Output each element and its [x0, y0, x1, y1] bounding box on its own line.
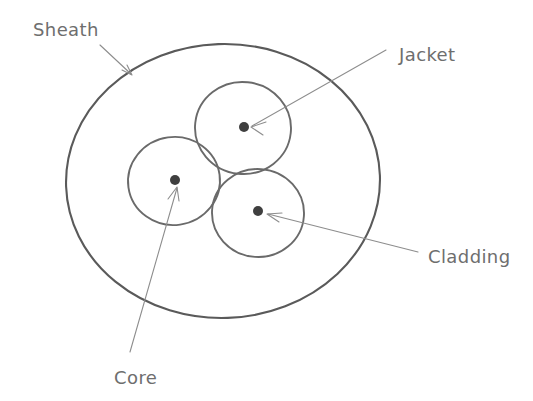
jacket-center-dot [239, 122, 249, 132]
jacket-leader-line [252, 50, 386, 126]
diagram-canvas: Sheath Jacket Cladding Core [0, 0, 533, 401]
sheath-group [61, 39, 384, 324]
jacket-arrow-head-icon [251, 122, 266, 135]
core-strand-group [122, 131, 225, 231]
fiber-cross-section-diagram: Sheath Jacket Cladding Core [0, 0, 533, 401]
cladding-leader-line [268, 214, 418, 252]
cladding-center-dot [253, 206, 263, 216]
cladding-strand-group [209, 166, 307, 260]
core-center-dot [170, 175, 180, 185]
core-leader-line [130, 188, 177, 352]
core-leader-group [130, 187, 179, 352]
label-jacket: Jacket [398, 44, 456, 65]
sheath-leader-group [100, 45, 132, 75]
jacket-strand-group [190, 77, 295, 179]
label-cladding: Cladding [428, 246, 511, 267]
label-sheath: Sheath [33, 19, 99, 40]
sheath-leader-line [100, 45, 131, 74]
label-core: Core [114, 367, 157, 388]
sheath-ellipse [61, 39, 384, 324]
